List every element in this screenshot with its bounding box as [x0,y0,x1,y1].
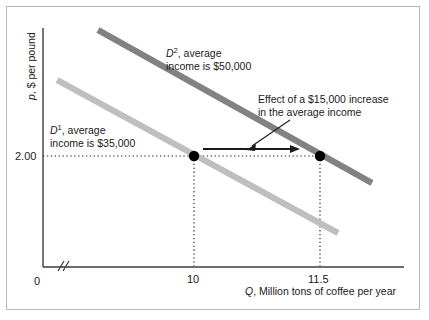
axis-break-icon [58,261,64,271]
annotation-line-1: Effect of a $15,000 increase [258,93,389,105]
curve-label-d2-line2: income is $50,000 [166,60,251,72]
curve-label-d1-line2: income is $35,000 [50,137,135,149]
figure-container: p, $ per pound Q, Million tons of coffee… [0,0,429,320]
annotation-text: Effect of a $15,000 increase in the aver… [258,93,389,118]
demand-curve-chart: p, $ per pound Q, Million tons of coffee… [0,0,429,320]
origin-label: 0 [34,275,40,287]
guide-lines [43,156,320,266]
x-tick-label-10: 10 [187,273,199,285]
curve-label-d1: D1, average income is $35,000 [50,123,135,149]
axis-break-icon-2 [63,261,69,271]
curve-label-d2: D2, average income is $50,000 [166,46,251,72]
equilibrium-point-d2 [315,151,325,161]
x-axis-title: Q, Million tons of coffee per year [245,285,396,297]
annotation-line-2: in the average income [258,106,361,118]
x-tick-label-115: 11.5 [308,273,329,285]
equilibrium-point-d1 [189,151,199,161]
svg-text:D1, average: D1, average [50,123,106,136]
svg-text:D2, average: D2, average [166,46,222,59]
y-tick-label-200: 2.00 [15,150,36,162]
y-axis-title: p, $ per pound [25,32,37,101]
